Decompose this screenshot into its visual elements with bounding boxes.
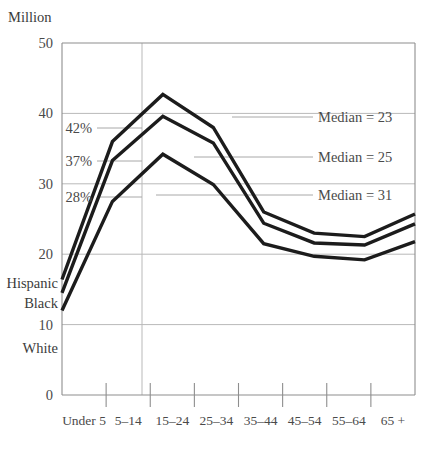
y-tick-label-20: 20 — [39, 246, 54, 262]
y-tick-label-0: 0 — [46, 387, 53, 403]
x-axis-label-7: 65 + — [381, 413, 406, 428]
y-axis-unit-label: Million — [8, 9, 52, 25]
series-line-white — [62, 154, 415, 310]
percent-label-black: 37% — [65, 153, 92, 169]
series-label-hispanic: Hispanic — [6, 275, 58, 291]
percent-label-white: 28% — [65, 189, 92, 205]
y-tick-label-30: 30 — [39, 176, 54, 192]
median-label-white: Median = 31 — [318, 187, 392, 203]
x-axis-label-3: 25–34 — [200, 413, 234, 428]
x-axis-label-0: Under 5 — [62, 413, 106, 428]
percent-label-hispanic: 42% — [65, 120, 92, 136]
chart-container: Million 01020304050 Under 55–1415–2425–3… — [0, 0, 435, 452]
x-axis-label-6: 55–64 — [332, 413, 366, 428]
median-label-black: Median = 25 — [318, 149, 392, 165]
x-axis-label-1: 5–14 — [115, 413, 142, 428]
x-axis-labels: Under 55–1415–2425–3435–4445–5455–6465 + — [62, 413, 405, 428]
series-label-black: Black — [24, 295, 59, 311]
line-chart: Million 01020304050 Under 55–1415–2425–3… — [0, 0, 435, 452]
median-label-hispanic: Median = 23 — [318, 109, 392, 125]
y-tick-label-10: 10 — [39, 317, 54, 333]
x-axis-label-5: 45–54 — [288, 413, 322, 428]
series-label-white: White — [23, 340, 58, 356]
y-tick-label-50: 50 — [39, 35, 54, 51]
x-axis-label-4: 35–44 — [244, 413, 278, 428]
y-tick-label-40: 40 — [39, 105, 54, 121]
series-line-black — [62, 116, 415, 293]
y-gridlines: 01020304050 — [39, 35, 416, 403]
x-axis-label-2: 15–24 — [155, 413, 189, 428]
